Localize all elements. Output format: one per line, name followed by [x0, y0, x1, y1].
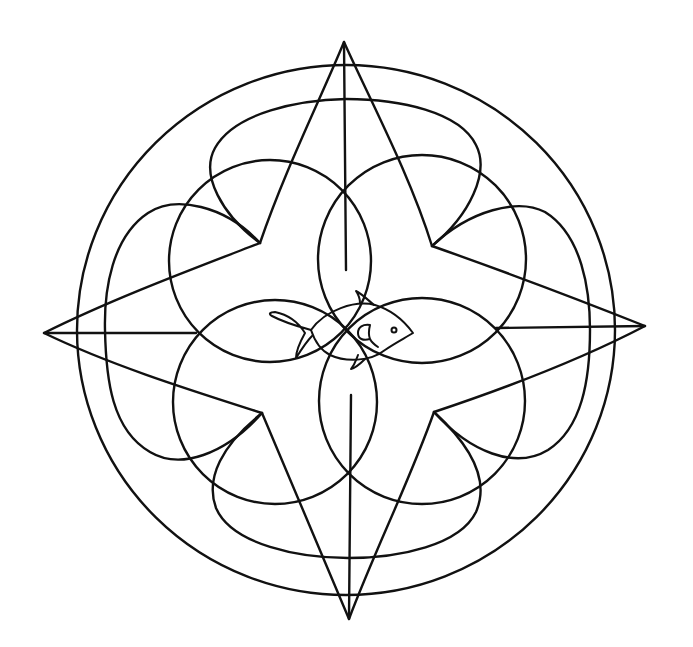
fish-tail [270, 312, 312, 358]
fish-pelvic-fin [351, 355, 365, 369]
fish-body [311, 304, 413, 360]
coloring-page: Mandala coloring page with fish Black li… [0, 0, 693, 647]
mandala-artwork [0, 0, 693, 647]
fish-eye [392, 328, 397, 333]
petal-circles [169, 155, 526, 504]
